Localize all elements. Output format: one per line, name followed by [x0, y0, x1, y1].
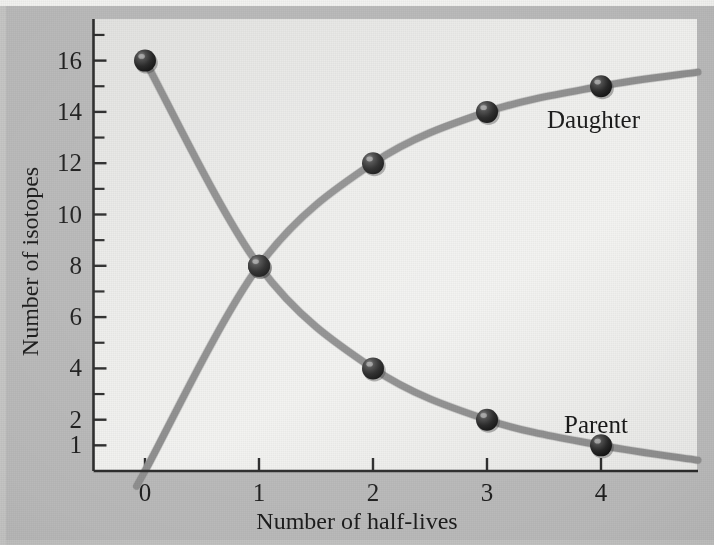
y-axis-tick-label: 14 [30, 99, 82, 124]
x-axis-title: Number of half-lives [0, 508, 714, 535]
y-axis-tick-label: 16 [30, 48, 82, 73]
data-point-marker [362, 357, 386, 381]
x-axis-tick-label: 2 [343, 480, 403, 505]
y-axis-title: Number of isotopes [17, 152, 44, 372]
data-point-markers-group [134, 50, 614, 459]
figure-radioactive-decay-chart: 1246810121416 01234 Number of isotopes N… [0, 0, 714, 545]
series-label-daughter: Daughter [547, 106, 640, 134]
data-point-marker [134, 50, 158, 74]
data-point-marker [476, 409, 500, 433]
x-axis-tick-label: 1 [229, 480, 289, 505]
x-axis-tick-label: 0 [115, 480, 175, 505]
series-label-parent: Parent [564, 411, 628, 439]
y-axis-tick-label: 2 [30, 407, 82, 432]
y-axis-tick-label: 1 [30, 432, 82, 457]
data-point-marker [590, 75, 614, 99]
x-axis-tick-label: 4 [571, 480, 631, 505]
x-axis-tick-label: 3 [457, 480, 517, 505]
chart-canvas [0, 0, 714, 545]
